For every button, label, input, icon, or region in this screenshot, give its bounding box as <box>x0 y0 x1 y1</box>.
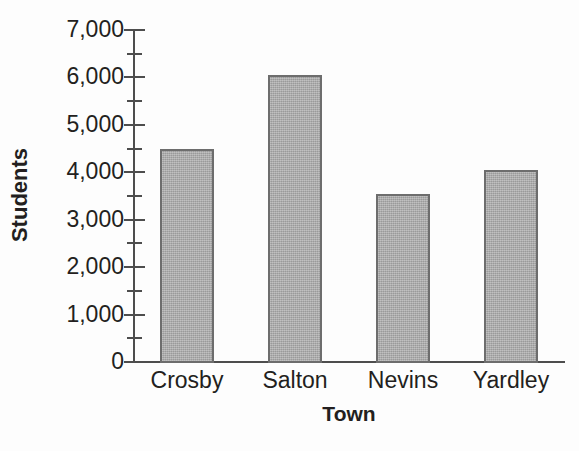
x-axis-tick-label: Nevins <box>349 368 457 393</box>
y-axis-minor-tick <box>127 337 142 339</box>
bar <box>484 170 538 363</box>
y-axis-major-tick <box>124 361 145 363</box>
y-axis-minor-tick <box>127 290 142 292</box>
y-axis-minor-tick <box>127 53 142 55</box>
y-axis-tick-label: 2,000 <box>38 255 124 278</box>
y-axis-major-tick <box>124 266 145 268</box>
x-axis-title: Town <box>133 402 565 426</box>
bar <box>268 75 322 363</box>
bar-chart: Students 01,0002,0003,0004,0005,0006,000… <box>0 0 579 451</box>
y-axis-tick-label: 0 <box>38 350 124 373</box>
x-axis-tick-labels: CrosbySaltonNevinsYardley <box>133 368 565 400</box>
y-axis-tick-label: 7,000 <box>38 18 124 41</box>
y-axis-major-tick <box>124 76 145 78</box>
y-axis-minor-tick <box>127 195 142 197</box>
y-axis-tick-label: 5,000 <box>38 113 124 136</box>
y-axis-minor-tick <box>127 148 142 150</box>
y-axis-major-tick <box>124 124 145 126</box>
x-axis-tick-label: Salton <box>241 368 349 393</box>
bar <box>160 149 214 363</box>
y-axis-minor-tick <box>127 242 142 244</box>
y-axis-major-tick <box>124 171 145 173</box>
y-axis-title-text: Students <box>7 148 33 242</box>
y-axis-tick-label: 6,000 <box>38 65 124 88</box>
y-axis-major-tick <box>124 29 145 31</box>
plot-area <box>133 30 565 362</box>
y-axis-minor-tick <box>127 100 142 102</box>
y-axis-tick-label: 1,000 <box>38 303 124 326</box>
x-axis-tick-label: Yardley <box>457 368 565 393</box>
y-axis-tick-label: 3,000 <box>38 208 124 231</box>
y-axis-major-tick <box>124 314 145 316</box>
y-axis-tick-labels: 01,0002,0003,0004,0005,0006,0007,000 <box>38 0 124 390</box>
y-axis-major-tick <box>124 219 145 221</box>
x-axis-tick-label: Crosby <box>133 368 241 393</box>
y-axis-title: Students <box>0 0 40 390</box>
bar <box>376 194 430 363</box>
y-axis-tick-label: 4,000 <box>38 160 124 183</box>
